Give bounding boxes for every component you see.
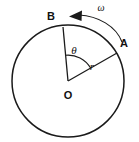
label-angle-theta: θ: [71, 44, 77, 56]
radius-line-ob: [63, 27, 68, 81]
diagram-canvas: B A O θ r ω: [0, 0, 139, 142]
label-angular-velocity-omega: ω: [97, 2, 104, 13]
label-point-b: B: [47, 10, 55, 22]
omega-arrow-head: [69, 11, 82, 22]
label-center-o: O: [64, 89, 73, 101]
circle-diagram: B A O θ r ω: [0, 0, 139, 142]
label-point-a: A: [120, 37, 128, 49]
label-radius-r: r: [90, 60, 95, 72]
angle-arc-theta: [66, 55, 91, 68]
